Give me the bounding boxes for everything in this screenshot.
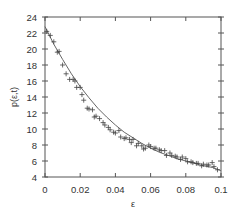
data-point-marker — [162, 148, 167, 153]
y-axis-ticks: 4681012141618202224 — [26, 12, 224, 183]
plot-border — [45, 17, 221, 177]
x-tick-label: 0.06 — [141, 184, 160, 195]
y-tick-label: 24 — [26, 12, 37, 23]
data-point-marker — [215, 167, 220, 172]
fit-line-path — [45, 27, 221, 171]
x-axis-label: ε — [131, 199, 135, 209]
x-tick-label: 0.02 — [71, 184, 90, 195]
data-point-marker — [90, 107, 95, 112]
x-tick-label: 0.04 — [106, 184, 125, 195]
x-tick-label: 0 — [42, 184, 47, 195]
y-tick-label: 8 — [32, 140, 37, 151]
plot-frame — [45, 17, 221, 177]
y-tick-label: 16 — [26, 76, 37, 87]
y-tick-label: 6 — [32, 156, 37, 167]
data-point-marker — [64, 71, 69, 76]
data-point-marker — [79, 92, 84, 97]
x-tick-label: 0.1 — [214, 184, 227, 195]
y-tick-label: 22 — [26, 28, 37, 39]
y-tick-label: 4 — [32, 172, 37, 183]
data-point-marker — [81, 98, 86, 103]
fit-curve — [45, 27, 221, 171]
y-axis-label: p(ε,t) — [9, 87, 19, 107]
chart: 00.020.040.060.080.1 4681012141618202224… — [0, 0, 237, 216]
data-point-marker — [97, 116, 102, 121]
x-tick-label: 0.08 — [177, 184, 196, 195]
y-tick-label: 10 — [26, 124, 37, 135]
data-markers — [44, 29, 220, 172]
y-tick-label: 20 — [26, 44, 37, 55]
data-point-marker — [60, 63, 65, 68]
y-tick-label: 18 — [26, 60, 37, 71]
y-tick-label: 14 — [26, 92, 37, 103]
y-tick-label: 12 — [26, 108, 37, 119]
x-axis-ticks: 00.020.040.060.080.1 — [42, 17, 227, 195]
